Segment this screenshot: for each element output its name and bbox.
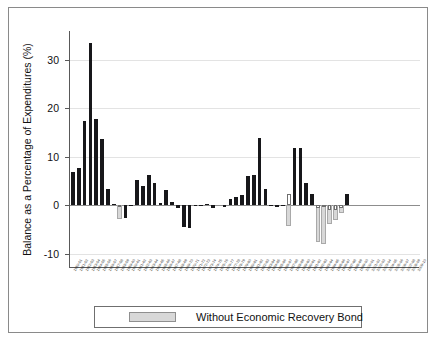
legend-swatch-without-economic-recovery-bond <box>129 312 176 322</box>
bar-reserve-balance <box>71 172 75 205</box>
bar-reserve-balance <box>264 189 268 205</box>
bar-reserve-balance <box>281 205 285 206</box>
bar-reserve-balance <box>287 194 291 205</box>
bar-reserve-balance <box>153 183 157 205</box>
bar-reserve-balance <box>240 195 244 205</box>
bar-series-layer <box>70 31 420 268</box>
y-axis-tick-label: 0 <box>25 200 59 210</box>
bar-reserve-balance <box>252 175 256 205</box>
bar-reserve-balance <box>83 121 87 205</box>
chart-panel: Balance as a Percentage of Expenditures … <box>8 7 428 333</box>
bar-reserve-balance <box>164 190 168 205</box>
bar-reserve-balance <box>328 205 332 210</box>
bar-reserve-balance <box>147 175 151 205</box>
bar-reserve-balance <box>112 204 116 205</box>
bar-reserve-balance <box>339 205 343 207</box>
bar-reserve-balance <box>246 176 250 205</box>
legend: Without Economic Recovery Bond <box>94 306 362 328</box>
bar-reserve-balance <box>176 205 180 207</box>
bar-reserve-balance <box>229 199 233 205</box>
chart-screenshot: Balance as a Percentage of Expenditures … <box>0 0 438 341</box>
bar-reserve-balance <box>94 119 98 206</box>
bar-reserve-balance <box>135 180 139 205</box>
y-axis-tick-label: 20 <box>25 103 59 113</box>
bar-without-economic-recovery-bond <box>321 205 326 244</box>
bar-reserve-balance <box>129 205 133 206</box>
bar-reserve-balance <box>199 205 203 206</box>
bar-reserve-balance <box>234 197 238 205</box>
bar-without-economic-recovery-bond <box>117 205 122 219</box>
plot-area-wrapper: Balance as a Percentage of Expenditures … <box>69 31 419 268</box>
bar-without-economic-recovery-bond <box>316 205 321 242</box>
bar-reserve-balance <box>211 205 215 207</box>
bar-reserve-balance <box>299 148 303 205</box>
bar-reserve-balance <box>89 43 93 206</box>
bar-reserve-balance <box>304 183 308 205</box>
plot-area <box>69 31 419 268</box>
bar-reserve-balance <box>100 139 104 205</box>
y-axis-tick-label: 30 <box>25 55 59 65</box>
bar-reserve-balance <box>118 205 122 207</box>
bar-reserve-balance <box>182 205 186 227</box>
bar-reserve-balance <box>159 203 163 205</box>
bar-reserve-balance <box>170 202 174 205</box>
bar-reserve-balance <box>223 205 227 207</box>
bar-reserve-balance <box>205 204 209 205</box>
bar-reserve-balance <box>269 205 273 206</box>
bar-reserve-balance <box>345 194 349 205</box>
x-axis-tick-labels: 1950-511951-521952-531953-541954-551955-… <box>69 269 419 297</box>
y-axis-title: Balance as a Percentage of Expenditures … <box>21 31 37 268</box>
bar-reserve-balance <box>106 189 110 205</box>
bar-reserve-balance <box>141 186 145 205</box>
bar-reserve-balance <box>258 138 262 205</box>
bar-reserve-balance <box>334 205 338 210</box>
bar-reserve-balance <box>77 168 81 205</box>
bar-reserve-balance <box>124 205 128 218</box>
bar-reserve-balance <box>194 205 198 206</box>
bar-reserve-balance <box>310 194 314 205</box>
bar-without-economic-recovery-bond <box>286 205 291 226</box>
bar-reserve-balance <box>188 205 192 228</box>
bar-reserve-balance <box>275 205 279 207</box>
y-axis-tick-label: -10 <box>25 249 59 259</box>
y-axis-tick-label: 10 <box>25 152 59 162</box>
bar-reserve-balance <box>322 205 326 207</box>
bar-reserve-balance <box>316 205 320 208</box>
bar-reserve-balance <box>293 148 297 206</box>
legend-label-without-economic-recovery-bond: Without Economic Recovery Bond <box>196 311 363 323</box>
